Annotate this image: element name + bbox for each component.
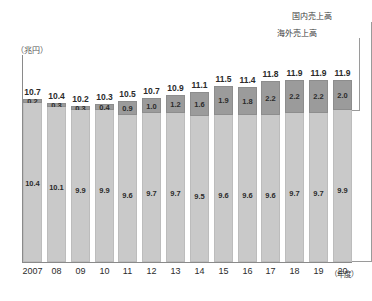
bar-segment-overseas[interactable]: 2.2: [309, 80, 328, 114]
bar-total-label: 11.9: [286, 68, 302, 78]
legend-leader-line-overseas-arm: [352, 110, 360, 111]
bar-column[interactable]: 10.50.99.6: [118, 101, 137, 262]
bar-segment-value-overseas: 2.2: [262, 93, 279, 102]
bar-segment-value-domestic: 9.7: [310, 189, 327, 198]
x-axis-tick-label: 20: [329, 266, 357, 276]
y-axis-unit-label: （兆円）: [16, 44, 48, 55]
bar-segment-domestic[interactable]: 9.7: [309, 113, 328, 262]
bar-column[interactable]: 11.92.29.7: [309, 80, 328, 262]
bar-column[interactable]: 11.92.29.7: [285, 80, 304, 262]
bar-segment-value-domestic: 9.6: [239, 191, 256, 200]
bar-segment-domestic[interactable]: 9.6: [214, 115, 233, 262]
bar-total-label: 10.4: [48, 91, 65, 101]
bar-total-label: 10.3: [96, 92, 113, 102]
bar-total-label: 11.8: [262, 69, 278, 79]
bar-segment-domestic[interactable]: 9.6: [261, 115, 280, 262]
bar-total-label: 11.1: [191, 80, 207, 90]
bar-column[interactable]: 10.40.310.1: [47, 103, 66, 262]
bar-segment-domestic[interactable]: 9.7: [166, 113, 185, 262]
bar-segment-overseas[interactable]: 1.0: [142, 98, 161, 113]
bar-column[interactable]: 10.91.29.7: [166, 95, 185, 262]
bar-segment-overseas[interactable]: 1.9: [214, 86, 233, 115]
bar-segment-domestic[interactable]: 9.6: [238, 115, 257, 262]
bar-total-label: 11.4: [239, 75, 255, 85]
bar-segment-domestic[interactable]: 9.7: [285, 113, 304, 262]
bar-total-label: 10.2: [72, 94, 89, 104]
bar-segment-value-domestic: 9.6: [119, 191, 136, 200]
bar-column[interactable]: 10.71.09.7: [142, 98, 161, 262]
bar-column[interactable]: 11.51.99.6: [214, 86, 233, 262]
bar-segment-domestic[interactable]: 9.9: [71, 110, 90, 262]
bar-segment-value-domestic: 9.9: [334, 186, 351, 195]
bar-segment-value-overseas: 1.2: [167, 100, 184, 109]
bar-total-label: 11.9: [310, 68, 326, 78]
bar-total-label: 10.9: [167, 83, 184, 93]
bar-segment-overseas[interactable]: 1.6: [190, 92, 209, 117]
bar-column[interactable]: 11.92.09.9: [333, 80, 352, 262]
bar-segment-overseas[interactable]: 2.2: [261, 81, 280, 115]
bar-segment-value-overseas: 0.9: [119, 103, 136, 112]
bar-segment-value-domestic: 9.5: [191, 192, 208, 201]
plot-area: 10.70.210.410.40.310.110.20.39.910.30.49…: [23, 55, 352, 262]
bar-total-label: 11.9: [334, 68, 350, 78]
legend-label-overseas: 海外売上高: [277, 27, 317, 38]
bar-segment-overseas[interactable]: 1.8: [238, 87, 257, 115]
bar-segment-domestic[interactable]: 9.7: [142, 113, 161, 262]
bar-column[interactable]: 11.11.69.5: [190, 92, 209, 262]
legend-leader-line-overseas: [359, 38, 360, 110]
bar-segment-overseas[interactable]: 1.2: [166, 95, 185, 113]
x-axis-line: [22, 262, 352, 263]
bar-total-label: 10.7: [143, 86, 160, 96]
bar-segment-domestic[interactable]: 10.4: [23, 103, 42, 262]
legend-label-domestic: 国内売上高: [292, 10, 332, 21]
bar-segment-value-domestic: 10.4: [24, 179, 41, 188]
bar-segment-value-overseas: 1.0: [143, 101, 160, 110]
bar-segment-domestic[interactable]: 9.9: [333, 110, 352, 262]
legend-leader-line-domestic-arm: [352, 261, 372, 262]
bar-segment-overseas[interactable]: 2.2: [285, 80, 304, 114]
bar-column[interactable]: 11.82.29.6: [261, 81, 280, 262]
bar-column[interactable]: 11.41.89.6: [238, 87, 257, 262]
bar-column[interactable]: 10.70.210.4: [23, 99, 42, 262]
bar-segment-value-overseas: 2.0: [334, 90, 351, 99]
bar-segment-value-overseas: 2.2: [286, 92, 303, 101]
bar-segment-value-domestic: 9.7: [167, 189, 184, 198]
bar-segment-value-domestic: 9.9: [96, 186, 113, 195]
bar-segment-value-domestic: 9.7: [286, 189, 303, 198]
x-axis-tick-labels: （年度） 200708091011121314151617181920: [0, 266, 362, 282]
bar-segment-domestic[interactable]: 9.9: [95, 110, 114, 262]
bar-segment-value-domestic: 9.9: [72, 186, 89, 195]
bar-total-label: 10.5: [119, 89, 136, 99]
bar-segment-domestic[interactable]: 10.1: [47, 107, 66, 262]
bar-segment-domestic[interactable]: 9.6: [118, 115, 137, 262]
bar-segment-domestic[interactable]: 9.5: [190, 116, 209, 262]
bar-segment-overseas[interactable]: 0.9: [118, 101, 137, 115]
bar-segment-value-overseas: 1.6: [191, 100, 208, 109]
bar-segment-value-domestic: 9.7: [143, 189, 160, 198]
bar-segment-value-domestic: 10.1: [48, 183, 65, 192]
bar-segment-value-domestic: 9.6: [262, 191, 279, 200]
bar-column[interactable]: 10.30.49.9: [95, 104, 114, 262]
bar-segment-value-overseas: 1.9: [215, 96, 232, 105]
bar-segment-value-overseas: 1.8: [239, 97, 256, 106]
bar-column[interactable]: 10.20.39.9: [71, 106, 90, 262]
bar-total-label: 11.5: [215, 74, 231, 84]
bar-segment-value-overseas: 2.2: [310, 92, 327, 101]
bar-segment-value-domestic: 9.6: [215, 191, 232, 200]
bar-segment-overseas[interactable]: 2.0: [333, 80, 352, 111]
